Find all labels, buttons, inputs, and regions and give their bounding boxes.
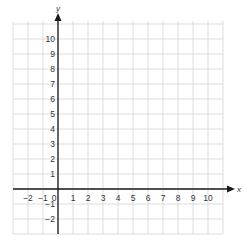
y-tick-label: 8 <box>50 64 55 74</box>
x-axis-label: x <box>236 185 242 194</box>
x-tick-label: 6 <box>146 193 151 203</box>
y-axis-arrow-icon <box>55 13 62 21</box>
coordinate-grid: −2−1012345678910 −2−112345678910 x y <box>0 0 245 243</box>
y-tick-label: 9 <box>50 49 55 59</box>
y-tick-label: 5 <box>50 109 55 119</box>
x-tick-label: 3 <box>101 193 106 203</box>
x-tick-label: 1 <box>71 193 76 203</box>
y-tick-label: −2 <box>45 214 55 224</box>
y-tick-label: 6 <box>50 94 55 104</box>
x-tick-label: 10 <box>203 193 213 203</box>
y-tick-label: −1 <box>45 199 55 209</box>
x-tick-label: 2 <box>86 193 91 203</box>
y-tick-label: 1 <box>50 169 55 179</box>
x-tick-label: 7 <box>161 193 166 203</box>
y-tick-label: 2 <box>50 154 55 164</box>
y-tick-label: 3 <box>50 139 55 149</box>
x-tick-label: 8 <box>176 193 181 203</box>
y-tick-label: 4 <box>50 124 55 134</box>
x-tick-label: 5 <box>131 193 136 203</box>
x-axis-arrow-icon <box>227 186 235 193</box>
x-tick-label: 9 <box>191 193 196 203</box>
y-axis-label: y <box>55 4 61 13</box>
x-tick-label: 4 <box>116 193 121 203</box>
x-tick-label: −2 <box>23 193 33 203</box>
y-tick-label: 7 <box>50 79 55 89</box>
y-tick-label: 10 <box>46 34 56 44</box>
